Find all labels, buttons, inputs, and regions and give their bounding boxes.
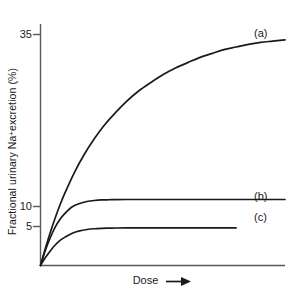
- y-tick-label-10: 10: [6, 201, 32, 212]
- y-tick-label-5: 5: [6, 221, 32, 232]
- x-axis-title-text: Dose: [133, 274, 159, 286]
- chart-figure: Fractional urinary Na+ excretion (%) 35 …: [0, 0, 290, 303]
- curve-label-b: (b): [254, 191, 267, 202]
- curve-b: [41, 199, 286, 265]
- curve-label-a: (a): [254, 28, 267, 39]
- curves-group: [41, 40, 286, 266]
- dose-response-line-chart: [0, 0, 290, 303]
- curve-c: [41, 228, 237, 266]
- curve-label-c: (c): [254, 212, 267, 223]
- y-tick-label-35: 35: [6, 29, 32, 40]
- x-axis-title: Dose: [40, 274, 285, 287]
- right-arrow-icon: [166, 276, 192, 287]
